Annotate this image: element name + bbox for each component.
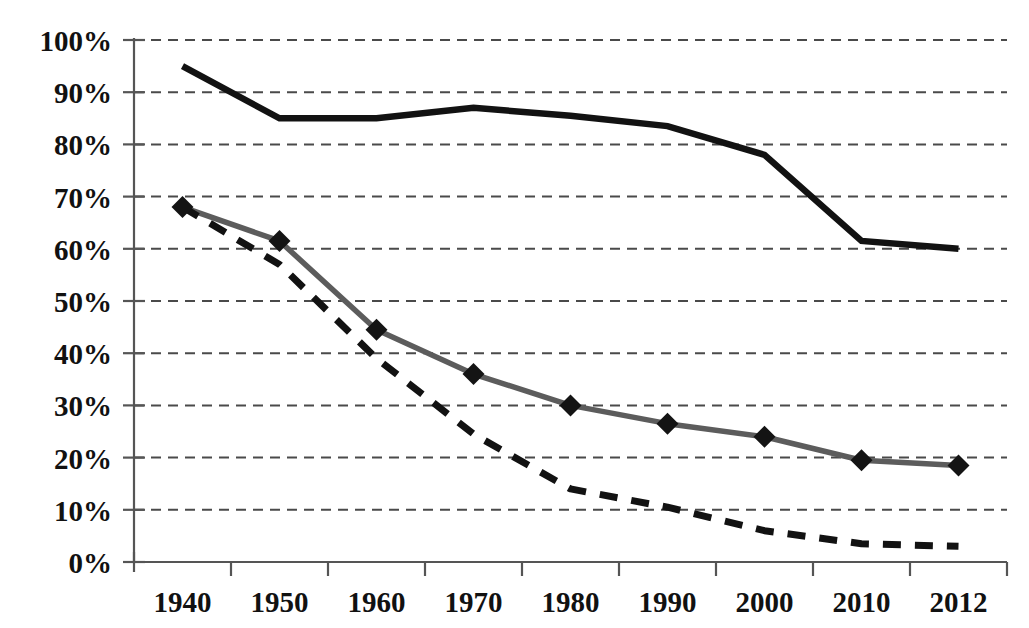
data-point-marker — [657, 413, 679, 435]
data-point-marker — [463, 363, 485, 385]
y-axis-tick-label: 30% — [54, 390, 112, 422]
x-axis-tick-label: 1970 — [445, 586, 503, 618]
chart-container: 0%10%20%30%40%50%60%70%80%90%100% 194019… — [0, 0, 1029, 628]
series-line-gray-diamond-middle — [183, 207, 959, 465]
data-series — [183, 66, 959, 546]
x-axis-tick-label: 1960 — [348, 586, 406, 618]
x-axis-tick-label: 1990 — [639, 586, 697, 618]
line-chart: 0%10%20%30%40%50%60%70%80%90%100% 194019… — [0, 0, 1029, 628]
y-axis-tick-label: 10% — [54, 495, 112, 527]
y-axis-tick-label: 0% — [69, 547, 113, 579]
x-axis-tick-label: 1980 — [542, 586, 600, 618]
y-axis-tick-label: 70% — [54, 182, 112, 214]
y-axis-tick-label: 80% — [54, 129, 112, 161]
x-axis-ticks — [134, 552, 1007, 576]
x-axis-tick-label: 2010 — [833, 586, 891, 618]
series-line-solid-black-upper — [183, 66, 959, 249]
x-axis-tick-label: 2012 — [930, 586, 988, 618]
y-axis-tick-label: 90% — [54, 77, 112, 109]
x-axis-tick-label: 1940 — [154, 586, 212, 618]
y-axis-tick-label: 20% — [54, 443, 112, 475]
y-axis-tick-label: 50% — [54, 286, 112, 318]
y-axis-tick-label: 40% — [54, 338, 112, 370]
data-point-marker — [560, 394, 582, 416]
x-axis-tick-label: 2000 — [736, 586, 794, 618]
y-axis-tick-label: 60% — [54, 234, 112, 266]
y-axis-labels: 0%10%20%30%40%50%60%70%80%90%100% — [40, 25, 113, 579]
x-axis-labels: 194019501960197019801990200020102012 — [154, 586, 988, 618]
data-point-marker — [851, 449, 873, 471]
y-axis-tick-label: 100% — [40, 25, 113, 57]
data-point-marker — [754, 426, 776, 448]
x-axis-tick-label: 1950 — [251, 586, 309, 618]
data-markers — [172, 196, 970, 476]
